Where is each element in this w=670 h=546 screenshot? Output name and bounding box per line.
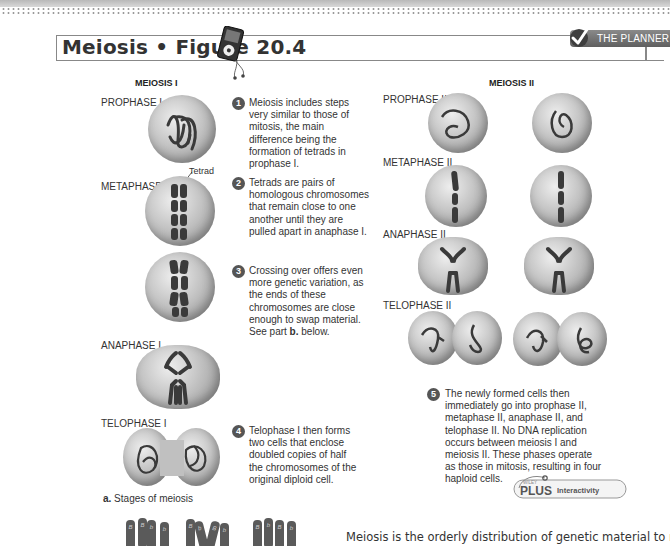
chromosome: b — [220, 523, 229, 546]
body-paragraph: Meiosis is the orderly distribution of g… — [346, 530, 670, 544]
chromosome: B — [138, 518, 147, 546]
checkmark-icon — [568, 25, 592, 49]
cell-metaphase-2-left — [425, 165, 487, 227]
cell-anaphase-2-right — [524, 237, 594, 295]
ipod-audio-icon[interactable] — [215, 26, 249, 82]
step-3-text-after: below. — [298, 326, 329, 337]
cell-anaphase-2-left — [418, 237, 488, 295]
cell-prophase-2-right — [532, 93, 592, 153]
caption-text: Stages of meiosis — [111, 493, 193, 504]
step-text-4: Telophase I then forms two cells that en… — [249, 425, 361, 486]
figure-title: Meiosis • Figure 20.4 — [62, 35, 306, 59]
cell-telophase-1-bridge — [160, 440, 184, 476]
svg-text:PLUS: PLUS — [520, 484, 552, 498]
step-number-3: 3 — [232, 265, 245, 278]
chromosome: b — [147, 520, 156, 546]
step-number-1: 1 — [232, 97, 245, 110]
title-frame-right-edge — [645, 45, 647, 61]
chromosome: b — [264, 518, 273, 546]
top-decorative-bar — [0, 0, 670, 7]
chromosome: b — [287, 521, 296, 546]
step-text-5: The newly formed cells then immediately … — [445, 388, 605, 486]
figure-caption-a: a. Stages of meiosis — [103, 493, 193, 504]
step-number-5: 5 — [427, 388, 440, 401]
svg-text:Interactivity: Interactivity — [557, 486, 600, 495]
cell-telophase-2-d — [557, 312, 607, 366]
meiosis-1-heading: MEIOSIS I — [135, 78, 178, 88]
chromosome: B — [205, 520, 221, 546]
cell-anaphase-1 — [136, 345, 220, 409]
dotted-rule — [0, 7, 670, 15]
step-number-2: 2 — [232, 177, 245, 190]
step-number-4: 4 — [232, 425, 245, 438]
chromosome: B — [126, 520, 135, 546]
cell-metaphase-2-right — [530, 165, 592, 227]
chromosome: B — [253, 520, 262, 546]
meiosis-2-heading: MEIOSIS II — [489, 78, 534, 88]
chromosome: b — [160, 522, 169, 546]
chromosome: B — [275, 520, 284, 546]
cell-telophase-2-b — [452, 311, 502, 365]
wileyplus-interactivity-button[interactable]: WILEY PLUS Interactivity — [513, 472, 627, 500]
stage-label-telophase-2: TELOPHASE II — [383, 300, 451, 311]
cell-telophase-2-c — [513, 312, 563, 366]
cell-telophase-2-a — [408, 311, 458, 365]
cell-prophase-1 — [148, 95, 216, 163]
step-text-2: Tetrads are pairs of homologous chromoso… — [249, 177, 371, 238]
step-text-1: Meiosis includes steps very similar to t… — [249, 97, 367, 170]
step-text-3: Crossing over offers even more genetic v… — [249, 265, 367, 338]
cell-metaphase-1 — [145, 176, 215, 246]
cell-prophase-2-left — [428, 93, 488, 153]
cell-metaphase-1-crossing-over — [145, 252, 215, 322]
